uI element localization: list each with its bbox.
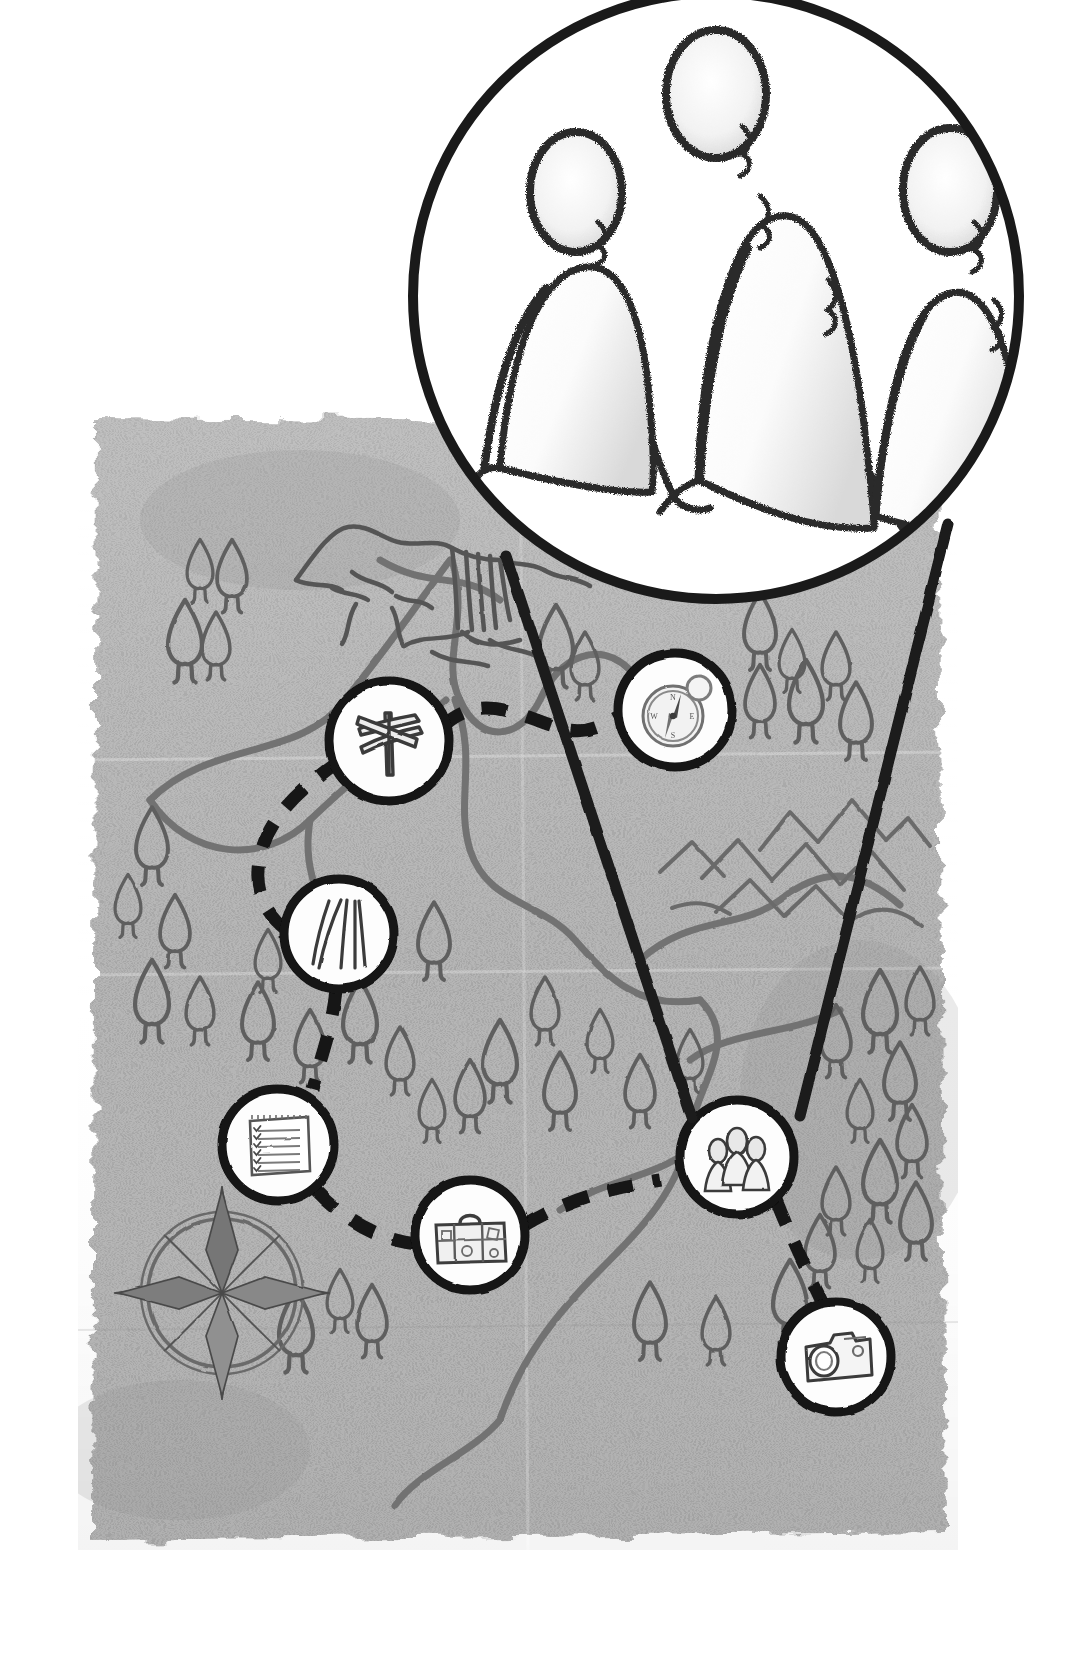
- waypoint-signpost[interactable]: [329, 681, 449, 801]
- waypoint-compass[interactable]: NESW: [618, 653, 732, 767]
- svg-text:N: N: [670, 693, 676, 702]
- svg-text:E: E: [690, 712, 695, 721]
- svg-text:W: W: [650, 712, 658, 721]
- waypoint-camera[interactable]: [781, 1302, 891, 1412]
- waypoint-checklist[interactable]: [222, 1089, 334, 1201]
- waypoint-suitcase[interactable]: [415, 1180, 525, 1290]
- journey-map-illustration: NESW: [0, 0, 1074, 1664]
- waypoint-road[interactable]: [284, 879, 394, 989]
- illustration-canvas: NESW: [0, 0, 1074, 1664]
- svg-text:S: S: [671, 731, 675, 740]
- checklist-icon: [250, 1115, 310, 1175]
